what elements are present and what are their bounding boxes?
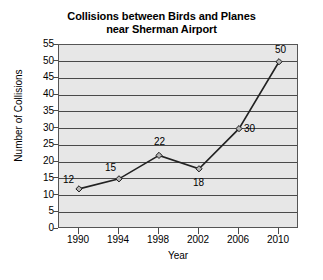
data-point-label: 12 xyxy=(63,175,74,185)
x-axis-tick-mark xyxy=(78,228,79,234)
y-axis-tick-mark xyxy=(53,60,58,61)
x-axis-tick-mark xyxy=(238,228,239,234)
x-axis-tick-mark xyxy=(198,228,199,234)
x-axis-tick-label: 1998 xyxy=(138,234,178,245)
y-axis-tick-label: 40 xyxy=(30,89,54,99)
data-point-label: 15 xyxy=(105,163,116,173)
y-axis-tick-label: 30 xyxy=(30,123,54,133)
data-point-label: 22 xyxy=(154,137,165,147)
x-axis-tick-label: 1994 xyxy=(98,234,138,245)
y-axis-tick-label: 15 xyxy=(30,173,54,183)
y-axis-tick-mark xyxy=(53,44,58,45)
chart-title-line-1: Collisions between Birds and Planes xyxy=(0,10,323,23)
x-axis-tick-label: 1990 xyxy=(58,234,98,245)
y-axis-tick-label: 5 xyxy=(30,206,54,216)
y-axis-tick-mark xyxy=(53,144,58,145)
y-axis-tick-label: 45 xyxy=(30,72,54,82)
y-axis-tick-mark xyxy=(53,127,58,128)
y-axis-tick-label: 35 xyxy=(30,106,54,116)
y-axis-title: Number of Collisions xyxy=(13,46,24,186)
series-line-collisions xyxy=(59,45,299,229)
x-axis-tick-label: 2002 xyxy=(178,234,218,245)
y-axis-tick-mark xyxy=(53,94,58,95)
chart-title-line-2: near Sherman Airport xyxy=(0,23,323,36)
y-axis-tick-mark xyxy=(53,177,58,178)
x-axis-tick-mark xyxy=(118,228,119,234)
x-axis-tick-mark xyxy=(278,228,279,234)
y-axis-tick-label: 20 xyxy=(30,156,54,166)
y-axis-tick-mark xyxy=(53,211,58,212)
y-axis-tick-mark xyxy=(53,110,58,111)
chart-title: Collisions between Birds and Planes near… xyxy=(0,10,323,36)
x-axis-tick-label: 2006 xyxy=(218,234,258,245)
data-point-label: 30 xyxy=(244,124,255,134)
y-axis-tick-label: 55 xyxy=(30,39,54,49)
y-axis-tick-mark xyxy=(53,194,58,195)
chart-figure: Collisions between Birds and Planes near… xyxy=(0,0,323,280)
y-axis-tick-label: 50 xyxy=(30,56,54,66)
y-axis-tick-label: 0 xyxy=(30,223,54,233)
plot-area xyxy=(58,44,298,228)
y-axis-tick-mark xyxy=(53,161,58,162)
x-axis-tick-labels: 199019941998200220062010 xyxy=(58,234,298,248)
y-axis-tick-labels: 0510152025303540455055 xyxy=(26,44,54,228)
x-axis-title: Year xyxy=(58,250,298,261)
x-axis-tick-label: 2010 xyxy=(258,234,298,245)
data-point-label: 50 xyxy=(275,45,286,55)
y-axis-tick-label: 10 xyxy=(30,190,54,200)
data-point-label: 18 xyxy=(193,178,204,188)
data-point-marker xyxy=(76,186,82,192)
y-axis-tick-mark xyxy=(53,228,58,229)
x-axis-tick-mark xyxy=(158,228,159,234)
y-axis-tick-label: 25 xyxy=(30,139,54,149)
y-axis-tick-mark xyxy=(53,77,58,78)
